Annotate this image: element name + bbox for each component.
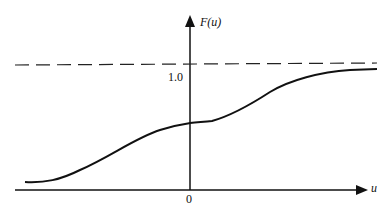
- x-axis-arrow-icon: [356, 185, 368, 195]
- x-axis-label: u: [371, 181, 377, 196]
- chart-canvas: [0, 0, 389, 218]
- asymptote-line: [15, 63, 377, 65]
- y-axis-label: F(u): [200, 15, 221, 30]
- y-axis-arrow-icon: [185, 15, 195, 27]
- y-tick-1: 1.0: [168, 70, 183, 85]
- origin-label: 0: [186, 192, 192, 207]
- curve-F: [25, 69, 377, 182]
